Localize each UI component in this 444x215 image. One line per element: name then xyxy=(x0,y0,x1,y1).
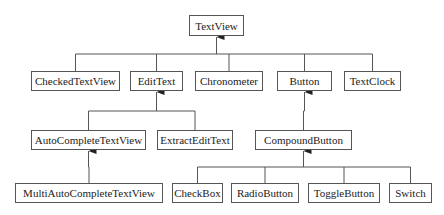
node-switch: Switch xyxy=(389,183,432,203)
node-label: Chronometer xyxy=(200,75,258,87)
node-extractedittext: ExtractEditText xyxy=(157,130,233,150)
node-label: Switch xyxy=(395,187,426,199)
node-label: TextView xyxy=(195,20,238,32)
node-label: MultiAutoCompleteTextView xyxy=(23,187,155,199)
node-togglebutton: ToggleButton xyxy=(308,183,380,203)
node-label: Button xyxy=(290,75,320,87)
class-hierarchy-diagram: TextView CheckedTextView EditText Chrono… xyxy=(0,0,444,215)
node-label: ExtractEditText xyxy=(160,134,229,146)
node-autocompletetextview: AutoCompleteTextView xyxy=(31,130,146,150)
node-checkbox: CheckBox xyxy=(172,183,223,203)
node-chronometer: Chronometer xyxy=(195,71,263,91)
node-label: CheckedTextView xyxy=(35,75,116,87)
node-label: TextClock xyxy=(350,75,396,87)
node-button: Button xyxy=(277,71,332,91)
node-checkedtextview: CheckedTextView xyxy=(31,71,120,91)
node-edittext: EditText xyxy=(130,71,183,91)
node-label: EditText xyxy=(138,75,176,87)
node-compoundbutton: CompoundButton xyxy=(255,130,352,150)
node-textview: TextView xyxy=(189,15,244,36)
node-radiobutton: RadioButton xyxy=(231,183,299,203)
node-label: RadioButton xyxy=(237,187,293,199)
node-label: CheckBox xyxy=(174,187,220,199)
node-multiautocompletetextview: MultiAutoCompleteTextView xyxy=(15,183,163,203)
node-label: CompoundButton xyxy=(264,134,343,146)
node-textclock: TextClock xyxy=(344,71,401,91)
node-label: AutoCompleteTextView xyxy=(35,134,142,146)
node-label: ToggleButton xyxy=(314,187,374,199)
